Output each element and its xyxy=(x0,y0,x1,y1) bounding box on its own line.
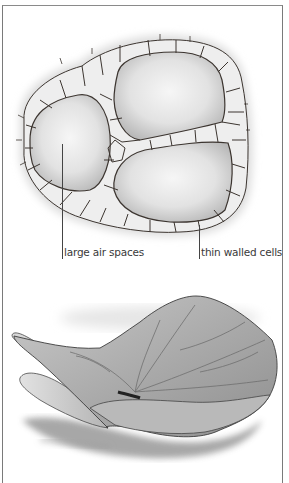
leader-line-cell-walls xyxy=(199,225,200,259)
label-thin-walled-cells: thin walled cells xyxy=(201,246,282,258)
cross-section-illustration xyxy=(0,0,289,270)
leader-line-air-spaces xyxy=(62,144,63,259)
cross-section-panel: large air spaces thin walled cells xyxy=(0,0,289,270)
leaf-panel xyxy=(0,270,289,478)
label-large-air-spaces: large air spaces xyxy=(64,246,144,258)
leaf-illustration xyxy=(0,270,289,478)
